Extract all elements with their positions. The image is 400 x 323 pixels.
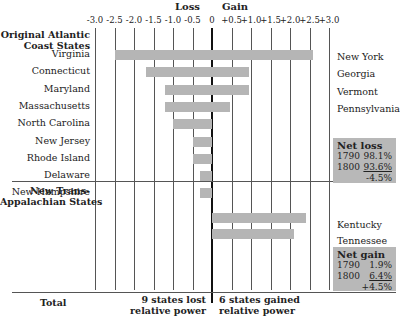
- bar-gain: [212, 102, 230, 112]
- bar-gain: [212, 67, 249, 77]
- bar-loss: [115, 50, 213, 60]
- net-loss-diff: -4.5%: [337, 173, 392, 184]
- total-label: Total: [40, 297, 66, 308]
- gain-header: Gain: [222, 1, 248, 12]
- bar-gain: [212, 50, 313, 60]
- bar-loss: [146, 67, 212, 77]
- bar-loss: [200, 171, 212, 181]
- state-label: Vermont: [337, 86, 378, 97]
- state-label: Maryland: [0, 83, 90, 94]
- net-loss-box: Net loss 179098.1% 180093.6% -4.5%: [333, 138, 396, 183]
- state-label: Connecticut: [0, 65, 90, 76]
- bar-loss: [200, 188, 212, 198]
- bar-loss: [173, 119, 212, 129]
- net-loss-value1: 98.1%: [363, 151, 392, 162]
- bar-loss: [193, 137, 213, 147]
- net-gain-year1: 1790: [337, 260, 360, 271]
- net-loss-value2: 93.6%: [363, 162, 392, 173]
- bar-gain: [212, 213, 306, 223]
- gridline: [251, 28, 252, 290]
- bar-loss: [165, 102, 212, 112]
- state-label: Georgia: [337, 68, 375, 79]
- lost-note: 9 states lost relative power: [118, 294, 206, 316]
- net-loss-year1: 1790: [337, 151, 360, 162]
- gridline: [95, 28, 96, 290]
- state-label: Massachusetts: [0, 100, 90, 111]
- tick-label: +3.0: [317, 15, 341, 25]
- state-label: North Carolina: [0, 117, 90, 128]
- gridline: [310, 28, 311, 290]
- group-trans: New Trans- Appalachian States: [0, 185, 90, 207]
- net-loss-year2: 1800: [337, 162, 360, 173]
- state-label: New Jersey: [0, 135, 90, 146]
- net-loss-title: Net loss: [337, 140, 392, 151]
- gridline: [271, 28, 272, 290]
- bar-loss: [193, 154, 213, 164]
- bar-gain: [212, 85, 249, 95]
- bar-gain: [212, 229, 294, 239]
- net-gain-box: Net gain 17901.9% 18006.4% +4.5%: [333, 247, 396, 291]
- gained-note: 6 states gained relative power: [219, 294, 300, 316]
- loss-header: Loss: [175, 1, 200, 12]
- gridline: [329, 28, 330, 290]
- net-gain-diff: +4.5%: [337, 282, 392, 293]
- net-gain-year2: 1800: [337, 271, 360, 282]
- gridline: [134, 28, 135, 290]
- state-label: Pennsylvania: [337, 103, 400, 114]
- state-label: Kentucky: [337, 219, 382, 230]
- bar-loss: [165, 85, 212, 95]
- gridline: [290, 28, 291, 290]
- net-gain-value1: 1.9%: [369, 260, 392, 271]
- state-label: New York: [337, 51, 384, 62]
- state-label: Rhode Island: [0, 152, 90, 163]
- gridline: [115, 28, 116, 290]
- state-label: Delaware: [0, 169, 90, 180]
- state-label: Tennessee: [337, 235, 387, 246]
- net-gain-title: Net gain: [337, 249, 392, 260]
- net-gain-value2: 6.4%: [369, 271, 392, 282]
- group-atlantic: Original Atlantic Coast States: [0, 29, 90, 51]
